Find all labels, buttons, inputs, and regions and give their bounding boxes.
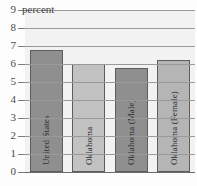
y-tick-label-4: 4	[0, 94, 16, 105]
y-tick-mark-8	[18, 28, 25, 29]
bars-layer: United StatesOklahomaOklahoma (Male)Okla…	[25, 10, 195, 172]
gridline-4	[25, 100, 195, 101]
y-tick-label-2: 2	[0, 130, 16, 141]
gridline-1	[25, 154, 195, 155]
plot-area: United StatesOklahomaOklahoma (Male)Okla…	[25, 10, 195, 172]
y-tick-mark-5	[18, 82, 25, 83]
gridline-7	[25, 46, 195, 47]
bar-label: Oklahoma (Male)	[127, 99, 136, 165]
y-tick-label-9: 9	[0, 4, 16, 15]
y-tick-mark-1	[18, 154, 25, 155]
y-tick-mark-4	[18, 100, 25, 101]
y-tick-label-3: 3	[0, 112, 16, 123]
y-tick-mark-0	[18, 172, 25, 173]
y-tick-label-1: 1	[0, 148, 16, 159]
gridline-2	[25, 136, 195, 137]
bar[interactable]: Oklahoma (Male)	[115, 68, 148, 172]
bar-label: Oklahoma	[84, 127, 93, 165]
y-tick-label-8: 8	[0, 22, 16, 33]
y-tick-label-0: 0	[0, 166, 16, 177]
bar-label: United States	[42, 115, 51, 165]
y-tick-label-6: 6	[0, 58, 16, 69]
y-tick-label-7: 7	[0, 40, 16, 51]
gridline-6	[25, 64, 195, 65]
y-tick-mark-2	[18, 136, 25, 137]
y-tick-mark-3	[18, 118, 25, 119]
bar[interactable]: Oklahoma (Female)	[157, 60, 190, 173]
gridline-8	[25, 28, 195, 29]
gridline-0	[25, 172, 195, 173]
y-tick-mark-7	[18, 46, 25, 47]
bar-chart: United StatesOklahomaOklahoma (Male)Okla…	[0, 0, 197, 186]
y-axis-unit-label: percent	[22, 4, 54, 15]
y-tick-mark-6	[18, 64, 25, 65]
gridline-3	[25, 118, 195, 119]
gridline-5	[25, 82, 195, 83]
y-tick-label-5: 5	[0, 76, 16, 87]
